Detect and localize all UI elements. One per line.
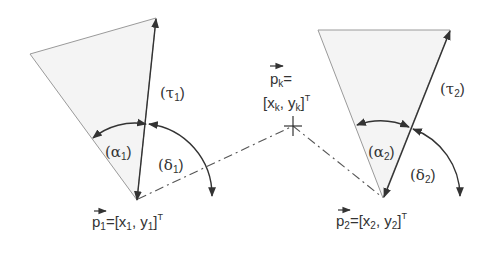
left-field-of-view xyxy=(30,18,156,200)
left-sensor: (τ1) (α1) (δ1) p1=[x1, y1]T xyxy=(30,18,212,232)
sensor-geometry-diagram: (τ1) (α1) (δ1) p1=[x1, y1]T pk= [xk, yk]… xyxy=(0,0,491,257)
target-p-label: pk= xyxy=(270,70,292,89)
svg-text:p2=[x2, y2]T: p2=[x2, y2]T xyxy=(336,211,407,231)
right-tau-label: (τ2) xyxy=(440,80,465,99)
left-tau-label: (τ1) xyxy=(160,84,185,103)
right-delta-label: (δ2) xyxy=(410,166,435,185)
left-position-label: p1=[x1, y1]T xyxy=(92,211,163,232)
svg-text:p1=[x1, y1]T: p1=[x1, y1]T xyxy=(92,212,163,232)
right-position-label: p2=[x2, y2]T xyxy=(336,210,407,231)
target-point: pk= [xk, yk]T xyxy=(263,66,311,136)
target-coord-label: [xk, yk]T xyxy=(263,93,311,113)
right-sensor: (τ2) (α2) (δ2) p2=[x2, y2]T xyxy=(318,30,465,231)
right-delta-arc xyxy=(413,129,460,196)
left-alpha-label: (α1) xyxy=(105,143,132,162)
right-alpha-label: (α2) xyxy=(368,143,395,162)
left-delta-label: (δ1) xyxy=(158,156,183,175)
bearing-lines xyxy=(138,126,382,199)
